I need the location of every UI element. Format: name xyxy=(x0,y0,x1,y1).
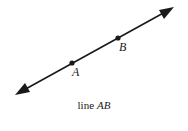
arrowhead-lower-left-icon xyxy=(15,83,30,95)
line-ab-stroke xyxy=(22,11,167,91)
caption-points: AB xyxy=(97,99,110,111)
figure-caption: lineAB xyxy=(0,99,188,112)
point-label-b: B xyxy=(119,41,126,53)
line-ab-figure: A B lineAB xyxy=(0,0,188,131)
caption-word: line xyxy=(78,99,95,111)
arrowhead-upper-right-icon xyxy=(159,7,174,19)
point-label-a: A xyxy=(72,66,79,78)
